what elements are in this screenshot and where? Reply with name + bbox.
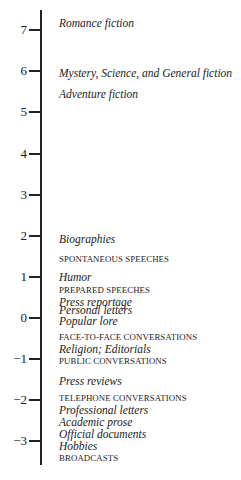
speech-genre-label: TELEPHONE CONVERSATIONS xyxy=(59,392,187,404)
y-axis-tick xyxy=(29,317,40,319)
written-genre-label: Romance fiction xyxy=(59,17,134,29)
written-genre-label: Humor xyxy=(59,271,92,283)
speech-genre-label: PUBLIC CONVERSATIONS xyxy=(59,355,167,367)
y-axis-tick-label: 4 xyxy=(21,147,28,161)
y-axis-tick xyxy=(29,358,40,360)
y-axis-tick xyxy=(29,29,40,31)
speech-genre-label: PREPARED SPEECHES xyxy=(59,284,150,296)
y-axis-tick-label: 2 xyxy=(21,229,28,243)
written-genre-label: Official documents xyxy=(59,428,146,440)
y-axis-tick-label: −1 xyxy=(13,352,27,366)
y-axis-tick xyxy=(29,70,40,72)
y-axis-tick xyxy=(29,276,40,278)
speech-genre-label: SPONTANEOUS SPEECHES xyxy=(59,253,169,265)
y-axis-tick xyxy=(29,399,40,401)
y-axis-tick xyxy=(29,153,40,155)
written-genre-label: Academic prose xyxy=(59,416,132,428)
written-genre-label: Press reviews xyxy=(59,375,122,387)
y-axis-tick xyxy=(29,194,40,196)
y-axis-tick-label: −3 xyxy=(13,434,27,448)
written-genre-label: Biographies xyxy=(59,233,115,245)
written-genre-label: Professional letters xyxy=(59,404,148,416)
y-axis-tick-label: 7 xyxy=(21,23,28,37)
written-genre-label: Hobbies xyxy=(59,440,97,452)
y-axis-tick-label: 1 xyxy=(21,270,28,284)
y-axis-tick xyxy=(29,111,40,113)
speech-genre-label: FACE-TO-FACE CONVERSATIONS xyxy=(59,331,197,343)
y-axis-tick-label: 0 xyxy=(21,311,28,325)
y-axis-tick-label: −2 xyxy=(13,393,27,407)
written-genre-label: Personal letters xyxy=(59,304,132,316)
y-axis-tick xyxy=(29,235,40,237)
y-axis-tick-label: 5 xyxy=(21,105,28,119)
written-genre-label: Popular lore xyxy=(59,315,118,327)
written-genre-label: Adventure fiction xyxy=(59,88,138,100)
written-genre-label: Religion; Editorials xyxy=(59,343,151,355)
y-axis-tick-label: 3 xyxy=(21,188,28,202)
speech-genre-label: BROADCASTS xyxy=(59,452,118,464)
y-axis-tick-label: 6 xyxy=(21,64,28,78)
y-axis-tick xyxy=(29,440,40,442)
written-genre-label: Mystery, Science, and General fiction xyxy=(59,67,232,79)
y-axis-line xyxy=(40,10,42,465)
